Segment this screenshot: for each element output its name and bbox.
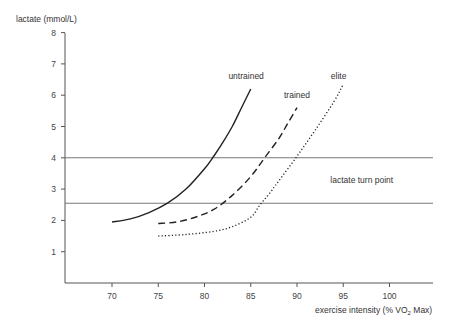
x-tick-label: 75: [154, 291, 164, 301]
x-axis-label-tail: Max): [411, 305, 432, 315]
y-tick-label: 6: [51, 90, 56, 100]
y-tick-label: 2: [51, 215, 56, 225]
annotations: untrainedtrainedelitelactate turn point: [228, 71, 393, 184]
y-tick-label: 4: [51, 153, 56, 163]
y-tick-label: 5: [51, 122, 56, 132]
axes: 12345678707580859095100: [51, 28, 433, 301]
annotation-elite: elite: [331, 71, 347, 81]
x-axis-label: exercise intensity (% VO2 Max): [315, 305, 432, 316]
annotation-lactate-turn-point: lactate turn point: [330, 175, 393, 185]
y-axis-label: lactate (mmol/L): [16, 14, 77, 24]
x-tick-label: 85: [246, 291, 256, 301]
x-axis-label-main: exercise intensity (% VO: [315, 305, 408, 315]
series-lines: [112, 84, 343, 236]
y-tick-label: 8: [51, 28, 56, 38]
lactate-chart: 12345678707580859095100 untrainedtrained…: [0, 0, 449, 324]
series-trained: [158, 108, 297, 224]
x-tick-label: 95: [339, 291, 349, 301]
x-tick-label: 80: [200, 291, 210, 301]
series-elite: [158, 84, 343, 236]
y-tick-label: 3: [51, 184, 56, 194]
x-tick-label: 70: [107, 291, 117, 301]
annotation-untrained: untrained: [228, 71, 264, 81]
x-tick-label: 90: [292, 291, 302, 301]
series-untrained: [112, 89, 251, 222]
y-tick-label: 7: [51, 59, 56, 69]
x-tick-label: 100: [382, 291, 396, 301]
y-tick-label: 1: [51, 247, 56, 257]
annotation-trained: trained: [284, 90, 310, 100]
